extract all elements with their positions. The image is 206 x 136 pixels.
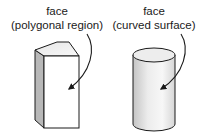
prism-side-face <box>35 50 44 128</box>
rectangular-prism <box>35 42 79 128</box>
left-label-subtitle: (polygonal region) <box>2 19 112 32</box>
right-label-title: face <box>114 5 194 18</box>
cylinder-curved-surface <box>133 55 175 131</box>
prism-front-face <box>44 56 79 128</box>
left-label-title: face <box>17 5 97 18</box>
prism-top-face <box>35 42 79 56</box>
diagram-stage: face (polygonal region) face (curved sur… <box>0 0 206 136</box>
cylinder <box>133 48 175 131</box>
cylinder-top-face <box>133 48 175 62</box>
right-label-subtitle: (curved surface) <box>102 19 206 32</box>
